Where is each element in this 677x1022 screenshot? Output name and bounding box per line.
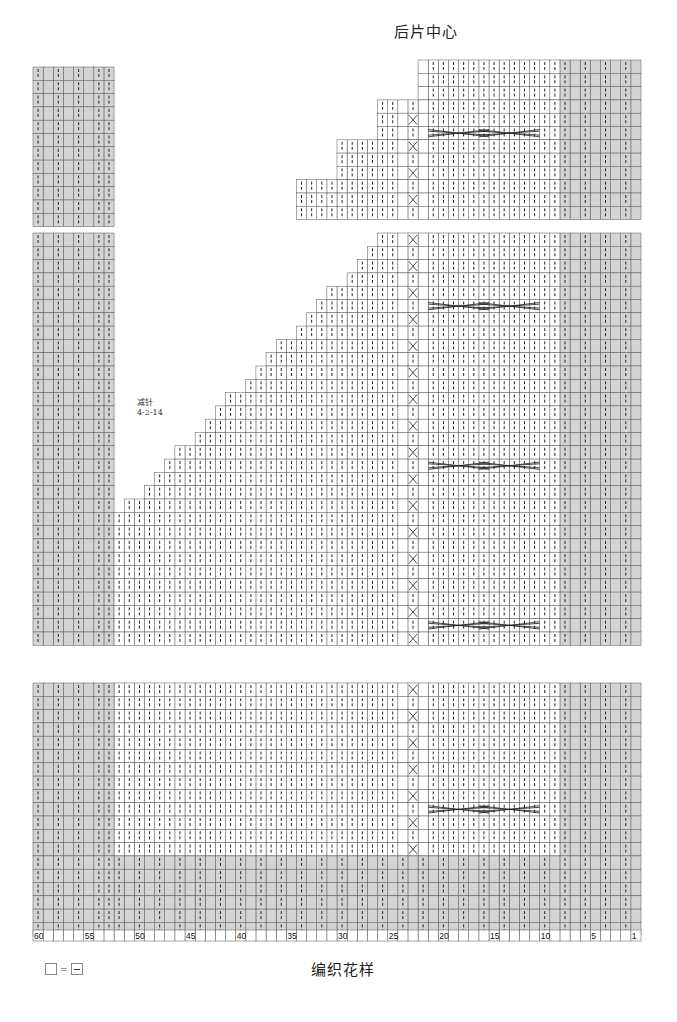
- axis-label: 30: [338, 931, 348, 941]
- axis-label: 1: [632, 931, 637, 941]
- bottom-block: [33, 683, 641, 936]
- axis-label: 45: [186, 931, 196, 941]
- axis-label: 40: [237, 931, 247, 941]
- axis-label: 25: [389, 931, 399, 941]
- decrease-note: 减针 4-2-14: [137, 398, 163, 418]
- legend: =: [45, 963, 83, 975]
- axis-label: 15: [490, 931, 500, 941]
- decrease-note-label: 减针: [137, 398, 163, 408]
- axis-label: 35: [287, 931, 297, 941]
- axis-label: 10: [541, 931, 551, 941]
- axis-label: 20: [439, 931, 449, 941]
- knitting-chart: 605550454035302520151051: [0, 0, 677, 1022]
- knit-blank-icon: [45, 963, 57, 975]
- axis-label: 50: [135, 931, 145, 941]
- decrease-note-value: 4-2-14: [137, 408, 163, 418]
- middle-left-strip: [33, 233, 114, 645]
- legend-equals: =: [60, 964, 68, 974]
- axis-label: 60: [34, 931, 44, 941]
- axis-label: 55: [85, 931, 95, 941]
- axis-label: 5: [591, 931, 596, 941]
- top-right-block: [296, 60, 641, 220]
- middle-main-block: [114, 233, 641, 645]
- purl-dash-icon: [71, 963, 83, 975]
- top-left-strip: [33, 67, 114, 227]
- chart-caption: 编织花样: [311, 958, 375, 979]
- column-axis: 605550454035302520151051: [33, 930, 641, 941]
- back-center-label: 后片中心: [394, 20, 458, 41]
